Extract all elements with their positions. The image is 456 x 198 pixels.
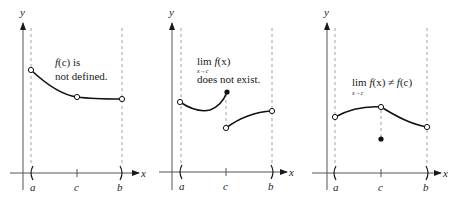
annotation-limit: lim f(x) xyxy=(197,55,231,68)
tick-label-c: c xyxy=(74,181,79,193)
open-point-b xyxy=(119,96,124,101)
tick-label-a: a xyxy=(333,181,339,193)
y-axis-label: y xyxy=(19,6,25,18)
tick-label-c: c xyxy=(378,181,383,193)
y-axis-label: y xyxy=(168,6,174,18)
tick-label-a: a xyxy=(179,180,185,192)
open-point-b xyxy=(424,124,429,129)
x-axis-label: x xyxy=(442,167,448,179)
panel-1-undefined-point: y x a c b f(c) is not defined. xyxy=(10,6,146,193)
left-curve xyxy=(180,92,227,111)
open-point-c xyxy=(378,104,383,109)
figure: y x a c b f(c) is not defined. y x xyxy=(0,0,456,198)
annotation-line-1: f(c) is xyxy=(55,56,80,69)
open-point-a xyxy=(177,99,182,104)
tick-label-c: c xyxy=(223,180,228,192)
open-point-a xyxy=(332,114,337,119)
open-point-b xyxy=(269,108,274,113)
annotation-line-2: not defined. xyxy=(55,70,108,82)
closed-point-f-of-c xyxy=(378,136,383,141)
panel-3-removable-discontinuity: y x a c b lim f(x) ≠ f(c) x→c xyxy=(312,6,448,193)
panel-2-jump-discontinuity: y x a c b lim f(x) x→c does not exist. xyxy=(159,6,294,192)
y-axis-label: y xyxy=(323,6,329,18)
annotation-limit: lim f(x) ≠ f(c) xyxy=(352,76,412,89)
annotation-subscript: x→c xyxy=(351,90,364,96)
annotation-line-2: does not exist. xyxy=(197,73,260,85)
tick-label-b: b xyxy=(423,181,429,193)
x-axis-label: x xyxy=(140,167,146,179)
open-point-c xyxy=(74,94,79,99)
tick-label-b: b xyxy=(117,181,123,193)
open-point-c xyxy=(223,125,228,130)
right-curve xyxy=(226,111,272,128)
open-point-a xyxy=(28,67,33,72)
tick-label-b: b xyxy=(268,180,274,192)
x-axis-label: x xyxy=(288,166,294,178)
tick-label-a: a xyxy=(30,181,36,193)
closed-point-c xyxy=(224,89,229,94)
